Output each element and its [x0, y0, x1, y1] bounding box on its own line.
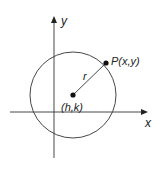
y-axis-label: y	[60, 14, 68, 28]
radius-label: r	[83, 70, 88, 82]
x-axis-label: x	[144, 116, 152, 130]
point-p	[103, 60, 108, 65]
circle-diagram: y x r (h,k) P(x,y)	[0, 0, 163, 170]
center-label: (h,k)	[61, 101, 83, 113]
y-axis-arrow-icon	[51, 16, 57, 23]
center-point	[70, 92, 75, 97]
point-label: P(x,y)	[111, 55, 140, 67]
x-axis-arrow-icon	[141, 109, 148, 115]
radius-line	[73, 63, 106, 95]
y-axis	[51, 16, 57, 158]
